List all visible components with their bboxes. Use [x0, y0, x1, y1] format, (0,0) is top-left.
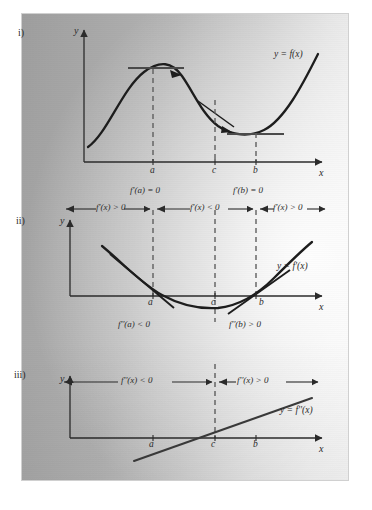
panel-iii-curve-label: y = f''(x) [280, 406, 313, 416]
panel-iii-y-axis-label: y [60, 374, 64, 384]
panel-ii-x-axis-label: x [319, 302, 323, 312]
panel-ii-plot [22, 210, 348, 340]
panel-iii: iii) y x a c b y = f''(x) f''(x) < 0 f''… [22, 350, 348, 476]
panel-ii-curve-fprime [102, 242, 312, 308]
figure-plate: i) y x a c b y = f(x) [22, 14, 348, 480]
panel-i: i) y x a c b y = f(x) [22, 14, 348, 184]
panel-ii-tick-label-a: a [148, 298, 153, 308]
panel-iii-tick-label-c: c [211, 440, 215, 450]
point-label-fsecond-b: f''(b) > 0 [229, 320, 261, 329]
figure-root: i) y x a c b y = f(x) [0, 0, 372, 510]
panel-ii-roman-label: ii) [16, 216, 25, 226]
point-label-fprime-a: f'(a) = 0 [130, 186, 160, 195]
panel-i-direction-marker-b [221, 126, 232, 133]
panel-iii-arrowhead-mid [219, 379, 227, 386]
panel-ii: ii) y x a c b y = f'(x) f''(a) < 0 f''(b… [22, 210, 348, 340]
panel-i-roman-label: i) [18, 28, 24, 38]
panel-iii-tick-label-b: b [253, 440, 258, 450]
point-label-fprime-b: f'(b) = 0 [233, 186, 263, 195]
panel-i-tick-label-a: a [150, 166, 155, 176]
panel-ii-tick-label-b: b [259, 298, 264, 308]
interval-label-fsecond-pos: f''(x) > 0 [237, 376, 268, 385]
panel-iii-roman-label: iii) [14, 370, 26, 380]
panel-iii-tick-label-a: a [149, 440, 154, 450]
panel-ii-tick-label-c: c [211, 298, 215, 308]
panel-ii-curve-label: y = f'(x) [277, 262, 308, 272]
panel-ii-tangent-at-a [110, 254, 174, 308]
panel-iii-arrowhead-left [64, 379, 72, 386]
panel-ii-y-axis-label: y [60, 216, 64, 226]
panel-i-tick-label-c: c [212, 166, 216, 176]
panel-i-tick-label-b: b [253, 166, 258, 176]
panel-i-curve-label: y = f(x) [274, 50, 303, 60]
panel-iii-x-axis-label: x [319, 444, 323, 454]
panel-i-y-axis-label: y [74, 26, 78, 36]
point-label-fsecond-a: f''(a) < 0 [118, 320, 150, 329]
panel-i-x-axis-label: x [319, 168, 323, 178]
panel-i-plot [22, 14, 348, 184]
interval-label-fsecond-neg: f''(x) < 0 [121, 376, 152, 385]
